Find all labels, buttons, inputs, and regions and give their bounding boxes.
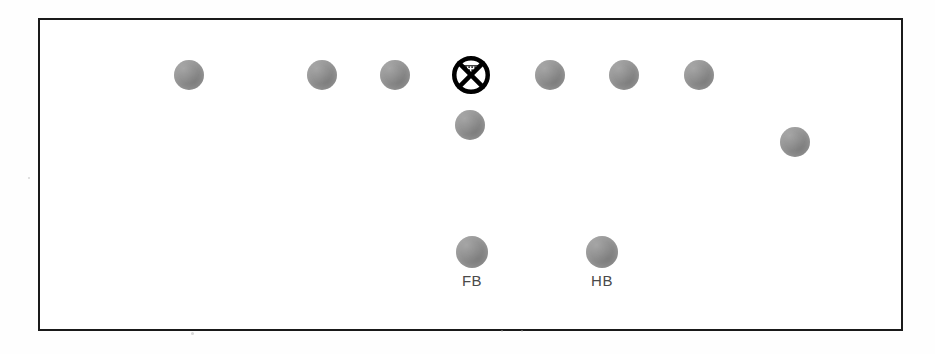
scan-speckle <box>521 330 523 332</box>
player-token-7[interactable] <box>455 110 485 140</box>
field-surface: FBHB <box>40 20 901 329</box>
player-token-fullback[interactable] <box>456 236 488 268</box>
crossed-circle-marker[interactable] <box>450 54 492 96</box>
field-frame-border: FBHB <box>38 18 903 331</box>
player-token-3[interactable] <box>380 60 410 90</box>
formation-diagram-canvas: FBHB <box>0 0 935 354</box>
position-label-fb: FB <box>462 272 482 289</box>
scan-speckle <box>191 332 194 335</box>
player-token-1[interactable] <box>174 60 204 90</box>
position-label-hb: HB <box>591 272 613 289</box>
player-token-2[interactable] <box>307 60 337 90</box>
player-token-halfback[interactable] <box>586 236 618 268</box>
player-token-8[interactable] <box>780 127 810 157</box>
scan-speckle <box>501 330 503 332</box>
player-token-6[interactable] <box>684 60 714 90</box>
player-token-5[interactable] <box>609 60 639 90</box>
scan-speckle <box>28 177 30 179</box>
player-token-4[interactable] <box>535 60 565 90</box>
